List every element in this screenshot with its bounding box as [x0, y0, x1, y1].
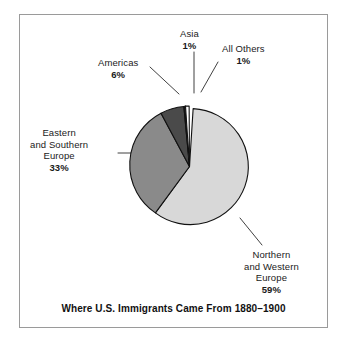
pie-label-all-others: All Others 1%: [222, 43, 265, 66]
pie-label-americas-name: Americas: [98, 57, 138, 69]
pie-label-northern-western-europe-line2: and Western: [244, 261, 299, 273]
pie-label-asia-name: Asia: [180, 28, 199, 40]
pie-label-americas: Americas 6%: [98, 57, 138, 80]
leader-line-northern-western: [240, 218, 262, 245]
leader-line-americas: [150, 67, 179, 94]
leader-line-all-others: [201, 62, 218, 92]
pie-label-eastern-southern-europe-line1: Eastern: [30, 127, 88, 139]
pie-label-americas-value: 6%: [98, 69, 138, 81]
chart-title: Where U.S. Immigrants Came From 1880–190…: [19, 303, 328, 314]
pie-label-northern-western-europe-value: 59%: [244, 284, 299, 296]
pie-label-all-others-name: All Others: [222, 43, 265, 55]
pie-label-northern-western-europe: Northern and Western Europe 59%: [244, 249, 299, 295]
pie-label-eastern-southern-europe-value: 33%: [30, 162, 88, 174]
pie-label-asia-value: 1%: [180, 40, 199, 52]
pie-label-northern-western-europe-line1: Northern: [244, 249, 299, 261]
pie-label-eastern-southern-europe: Eastern and Southern Europe 33%: [30, 127, 88, 173]
pie-label-all-others-value: 1%: [222, 55, 265, 67]
pie-label-northern-western-europe-line3: Europe: [244, 272, 299, 284]
pie-label-eastern-southern-europe-line2: and Southern: [30, 139, 88, 151]
pie-label-eastern-southern-europe-line3: Europe: [30, 150, 88, 162]
pie-label-asia: Asia 1%: [180, 28, 199, 51]
